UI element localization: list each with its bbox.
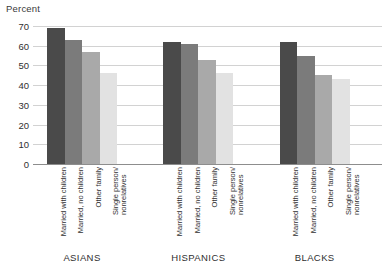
category-label: Married, no children <box>310 167 318 233</box>
bar <box>297 56 315 164</box>
y-axis-tick-labels: 010203040506070 <box>0 26 29 164</box>
category-label: Married, no children <box>194 167 202 233</box>
group-label: ASIANS <box>63 252 100 263</box>
category-label: Married with children <box>292 167 300 236</box>
bar <box>100 73 118 164</box>
category-label: Single person/nonrelatives <box>345 167 362 215</box>
y-axis-tick-label: 20 <box>1 119 29 130</box>
gridline <box>33 26 382 27</box>
category-label-line: Single person/ <box>228 167 237 215</box>
group-axis-labels: ASIANSHISPANICSBLACKS <box>33 252 382 268</box>
y-axis-tick-label: 70 <box>1 21 29 32</box>
category-label: Married, no children <box>77 167 85 233</box>
category-label-line: Married with children <box>291 167 300 236</box>
group-label: BLACKS <box>295 252 335 263</box>
category-label-line: Married, no children <box>76 167 85 233</box>
bar <box>65 40 83 164</box>
category-label-line: Married with children <box>175 167 184 236</box>
category-label: Other family <box>327 167 335 207</box>
bar <box>280 42 298 164</box>
bar <box>315 75 333 164</box>
bar <box>332 79 350 164</box>
category-axis-labels: Married with childrenMarried, no childre… <box>33 167 382 251</box>
y-axis-tick-label: 30 <box>1 99 29 110</box>
category-label-line: nonrelatives <box>353 167 361 215</box>
category-label-line: nonrelatives <box>121 167 129 215</box>
category-label: Married with children <box>60 167 68 236</box>
category-label: Single person/nonrelatives <box>229 167 246 215</box>
bar-chart: Percent 010203040506070 Married with chi… <box>0 0 390 272</box>
bar <box>82 52 100 164</box>
axis-baseline <box>33 164 382 165</box>
category-label-line: Married, no children <box>193 167 202 233</box>
y-axis-tick-label: 0 <box>1 159 29 170</box>
category-label-line: Married with children <box>59 167 68 236</box>
category-label: Single person/nonrelatives <box>112 167 129 215</box>
category-label-line: nonrelatives <box>237 167 245 215</box>
y-axis-tick-label: 50 <box>1 60 29 71</box>
bar <box>181 44 199 164</box>
category-label: Married with children <box>176 167 184 236</box>
category-label-line: Other family <box>94 167 103 207</box>
y-axis-title: Percent <box>6 3 40 14</box>
y-axis-tick-label: 60 <box>1 40 29 51</box>
category-label: Other family <box>95 167 103 207</box>
group-label: HISPANICS <box>171 252 225 263</box>
y-axis-tick-label: 10 <box>1 139 29 150</box>
category-label-line: Other family <box>210 167 219 207</box>
bar <box>198 60 216 164</box>
category-label: Other family <box>211 167 219 207</box>
bar <box>163 42 181 164</box>
bar <box>216 73 234 164</box>
y-axis-tick-label: 40 <box>1 80 29 91</box>
category-label-line: Married, no children <box>309 167 318 233</box>
plot-area <box>33 26 382 164</box>
gridline <box>33 46 382 47</box>
bar <box>47 28 65 164</box>
category-label-line: Other family <box>326 167 335 207</box>
